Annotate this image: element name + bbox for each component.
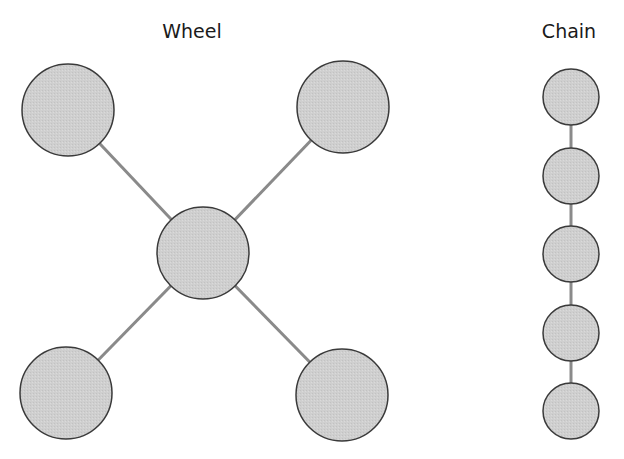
- wheel-node-center: [157, 207, 249, 299]
- wheel-node-bottom-right: [296, 349, 388, 441]
- chain-nodes: [543, 69, 599, 439]
- wheel-diagram: [20, 61, 389, 441]
- wheel-node-top-left: [22, 64, 114, 156]
- network-diagram-canvas: [0, 0, 624, 459]
- wheel-nodes: [20, 61, 389, 441]
- chain-node-c1: [543, 69, 599, 125]
- wheel-title: Wheel: [162, 20, 222, 42]
- chain-node-c4: [543, 305, 599, 361]
- wheel-node-top-right: [297, 61, 389, 153]
- wheel-node-bottom-left: [20, 347, 112, 439]
- chain-node-c5: [543, 383, 599, 439]
- chain-node-c2: [543, 148, 599, 204]
- chain-diagram: [543, 69, 599, 439]
- chain-node-c3: [543, 226, 599, 282]
- chain-title: Chain: [542, 20, 596, 42]
